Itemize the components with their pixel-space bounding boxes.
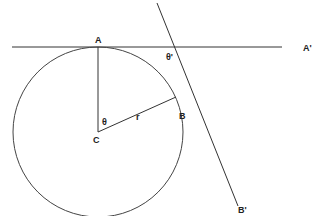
label-c: C [93,136,100,145]
label-b-prime: B' [238,206,247,215]
label-theta-prime: θ' [166,53,173,62]
label-theta: θ [102,118,107,127]
tangent-line-b-b-prime [157,3,238,206]
geometry-diagram [0,0,322,216]
label-a: A [95,36,102,45]
label-r: r [136,113,140,122]
label-a-prime: A' [303,44,312,53]
label-b: B [179,112,186,121]
